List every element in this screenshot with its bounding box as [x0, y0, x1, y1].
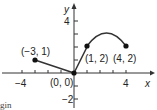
x-axis-label: x: [144, 78, 151, 89]
x-tick-label-4: 4: [123, 78, 129, 89]
point-1-2: [84, 43, 89, 48]
point-origin: [71, 70, 76, 75]
graph: −4 4 4 −2 x y (−3, 1) (0, 0) (1, 2) (4, …: [0, 0, 157, 110]
y-axis-arrow-icon: [72, 3, 77, 9]
label-1-2: (1, 2): [85, 53, 108, 64]
label-origin: (0, 0): [50, 77, 73, 88]
arc-1-2-to-4-2: [87, 33, 126, 46]
point-neg3-1: [32, 57, 37, 62]
segment-neg3-to-origin: [35, 60, 74, 73]
x-tick-label-neg4: −4: [15, 78, 27, 89]
label-4-2: (4, 2): [113, 53, 136, 64]
label-neg3-1: (−3, 1): [21, 46, 50, 57]
point-4-2: [123, 43, 128, 48]
y-tick-label-neg2: −2: [62, 94, 74, 105]
x-axis-arrow-icon: [150, 71, 155, 76]
y-axis-label: y: [63, 4, 70, 15]
cropped-caption-text: gin: [0, 100, 12, 110]
y-tick-label-4: 4: [64, 16, 70, 27]
y-ticks: [74, 21, 78, 99]
